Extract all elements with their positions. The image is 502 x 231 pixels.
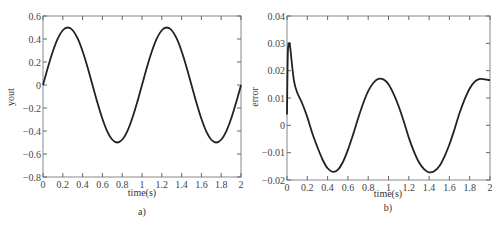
- y-tick-label: −0.4: [23, 126, 41, 137]
- x-tick-label: 0.8: [362, 182, 375, 193]
- caption-b: b): [384, 202, 392, 214]
- x-tick-label: 1.2: [403, 182, 416, 193]
- x-tick-label: 1.6: [195, 179, 208, 190]
- caption-a: a): [138, 206, 146, 218]
- x-tick-label: 0.8: [116, 179, 129, 190]
- y-tick-label: 0.03: [268, 38, 286, 49]
- y-tick-label: 0.04: [268, 11, 286, 22]
- chart-panel-a: 00.20.40.60.811.21.41.61.820.60.40.20−0.…: [23, 11, 244, 191]
- plot-frame: [287, 16, 490, 180]
- y-tick-label: 0.01: [268, 93, 286, 104]
- x-tick-label: 1.6: [443, 182, 456, 193]
- y-tick-label: 0.2: [29, 57, 42, 68]
- x-tick-label: 1.8: [463, 182, 476, 193]
- plot-frame: [43, 16, 241, 177]
- xlabel-b: time(s): [374, 188, 402, 200]
- y-tick-label: −0.2: [23, 103, 41, 114]
- y-tick-label: 0.02: [268, 65, 286, 76]
- series-line-yout: [43, 28, 241, 143]
- y-tick-label: −0.02: [262, 175, 285, 186]
- y-tick-label: −0.8: [23, 172, 41, 183]
- y-tick-label: 0.6: [29, 11, 42, 22]
- x-tick-label: 0: [41, 179, 46, 190]
- x-tick-label: 0.4: [321, 182, 334, 193]
- x-tick-label: 0.4: [76, 179, 89, 190]
- x-tick-label: 1.4: [423, 182, 436, 193]
- x-tick-label: 1.2: [156, 179, 169, 190]
- x-tick-label: 1.8: [215, 179, 228, 190]
- figure: 00.20.40.60.811.21.41.61.820.60.40.20−0.…: [0, 0, 502, 231]
- x-tick-label: 2: [239, 179, 244, 190]
- x-tick-label: 2: [488, 182, 493, 193]
- chart-panel-b: 00.20.40.60.811.21.41.61.820.040.030.020…: [262, 11, 493, 194]
- ylabel-b: error: [249, 87, 260, 107]
- series-line-error: [287, 43, 490, 172]
- x-tick-label: 1.4: [175, 179, 188, 190]
- x-tick-label: 0.2: [57, 179, 70, 190]
- y-tick-label: 0.4: [29, 34, 42, 45]
- y-tick-label: −0.01: [262, 147, 285, 158]
- x-tick-label: 0.6: [342, 182, 355, 193]
- ylabel-a: yout: [5, 88, 16, 106]
- x-tick-label: 0.6: [96, 179, 109, 190]
- y-tick-label: 0: [36, 80, 41, 91]
- y-tick-label: −0.6: [23, 149, 41, 160]
- y-tick-label: 0: [280, 120, 285, 131]
- x-tick-label: 0: [285, 182, 290, 193]
- x-tick-label: 0.2: [301, 182, 314, 193]
- xlabel-a: time(s): [128, 187, 156, 199]
